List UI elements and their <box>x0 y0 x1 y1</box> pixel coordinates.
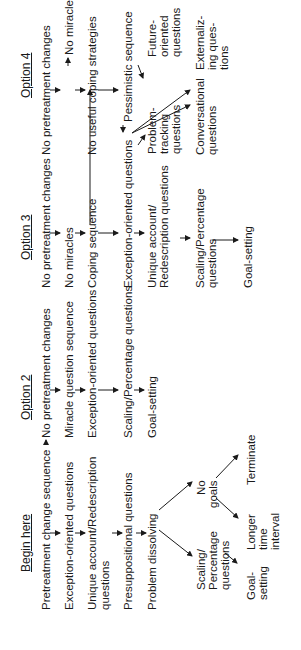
node-problem-tracking-line3: questions <box>170 105 183 154</box>
node-conversational-line2: questions <box>206 106 219 155</box>
node-presuppositional-questions: Presuppositional questions <box>122 473 135 610</box>
node-scaling-line1: Scaling/Percentage <box>194 188 207 288</box>
node-no-miracles: No miracles <box>63 227 76 288</box>
node-problem-tracking-line1: Problem- <box>146 107 159 154</box>
node-unique-account-line1: Unique account/ <box>146 205 159 288</box>
node-no-goals-line1: No <box>195 480 208 495</box>
node-no-miracles: No miracles <box>63 0 76 55</box>
node-future-oriented-line3: questions <box>170 8 183 57</box>
node-exception-oriented-questions: Exception-oriented questions <box>63 462 76 610</box>
node-no-useful-coping-strategies: No useful coping strategies <box>86 16 99 155</box>
node-no-goals-line2: goals <box>207 481 220 509</box>
node-scaling-line2: questions <box>206 239 219 288</box>
node-future-oriented-line2: oriented <box>158 15 171 57</box>
node-unique-account-line2: Redescription questions <box>158 165 171 288</box>
node-unique-account-line1: Unique account/Redescription <box>86 457 99 610</box>
node-goal-setting: Goal-setting <box>146 376 159 438</box>
node-pessimistic-sequence: Pessimistic sequence <box>122 11 135 122</box>
node-problem-dissolving: Problem dissolving <box>146 513 159 610</box>
node-externalizing-line3: tions <box>218 46 231 70</box>
node-no-pretreatment-changes: No pretreatment changes <box>40 308 53 438</box>
node-no-pretreatment-changes: No pretreatment changes <box>40 25 53 155</box>
node-scaling-percentage-questions: Scaling/Percentage questions <box>122 286 135 438</box>
node-scaling-line2: Percentage <box>207 531 220 590</box>
node-future-oriented-line1: Future- <box>146 20 159 57</box>
node-terminate: Terminate <box>245 435 258 486</box>
node-goal-setting: Goal-setting <box>242 226 255 288</box>
column-header-option-4: Option 4 <box>20 53 33 98</box>
node-scaling-line1: Scaling/ <box>195 549 208 590</box>
node-scaling-line3: questions <box>219 541 232 590</box>
node-exception-oriented-questions: Exception-oriented questions <box>122 140 135 288</box>
column-header-option-2: Option 2 <box>20 375 33 420</box>
node-no-pretreatment-changes: No pretreatment changes <box>40 158 53 288</box>
node-longer-line2: time <box>257 528 270 550</box>
node-longer-line3: interval <box>269 513 282 550</box>
node-coping-sequence: Coping sequence <box>86 198 99 288</box>
column-header-begin-here: Begin here <box>20 514 33 572</box>
node-externalizing-line1: Externaliz- <box>194 16 207 70</box>
node-miracle-question-sequence: Miracle question sequence <box>63 301 76 438</box>
node-problem-tracking-line2: tracking <box>158 114 171 154</box>
node-conversational-line1: Conversational <box>194 78 207 155</box>
column-header-option-3: Option 3 <box>20 215 33 260</box>
node-unique-account-line2: questions <box>99 561 112 610</box>
flowchart-canvas: Begin here Pretreatment change sequence … <box>0 0 301 650</box>
node-pretreatment-change-sequence: Pretreatment change sequence <box>40 450 53 610</box>
node-goal-setting-line1: Goal- <box>245 572 258 600</box>
node-goal-setting-line2: setting <box>257 566 270 600</box>
node-exception-oriented-questions: Exception-oriented questions <box>86 290 99 438</box>
node-longer-line1: Longer <box>245 514 258 550</box>
node-externalizing-line2: ing ques- <box>206 23 219 70</box>
